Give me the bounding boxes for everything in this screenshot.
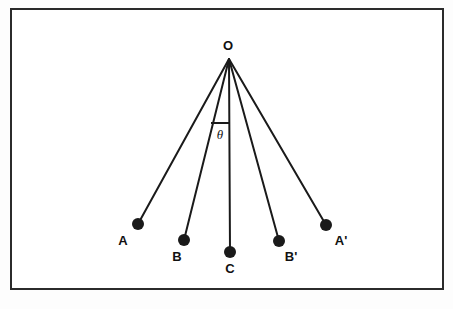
pendulum-string-c <box>229 59 230 252</box>
point-label-a: A <box>118 233 128 248</box>
point-label-c: C <box>225 261 235 276</box>
pendulum-diagram-svg: ABCB'A' O θ <box>0 0 453 309</box>
angle-label-theta: θ <box>217 127 224 142</box>
point-label-b: B <box>172 249 181 264</box>
pendulum-bob-a <box>132 218 144 230</box>
point-label-a-prime: A' <box>335 233 347 248</box>
pivot-label-o: O <box>223 38 233 53</box>
pendulum-bob-a-prime <box>320 219 332 231</box>
pendulum-bob-c <box>224 246 236 258</box>
point-label-b-prime: B' <box>285 249 297 264</box>
pendulum-bob-b-prime <box>273 235 285 247</box>
figure-root: ABCB'A' O θ <box>0 0 453 309</box>
pendulum-bob-b <box>178 234 190 246</box>
